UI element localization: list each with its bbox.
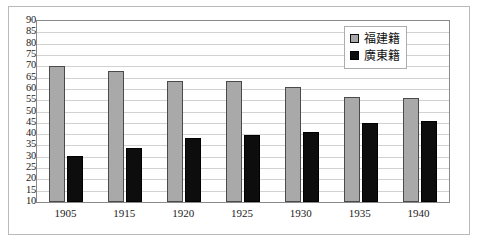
x-tick-label: 1905: [54, 206, 76, 220]
bar-1940-series-1: [403, 98, 419, 202]
x-tick-label: 1920: [172, 206, 194, 220]
x-tick-label: 1935: [349, 206, 371, 220]
x-axis: 1905191519201925193019351940: [36, 206, 450, 226]
y-tick-label: 80: [26, 38, 36, 48]
y-tick-label: 30: [26, 151, 36, 161]
x-tick-label: 1915: [113, 206, 135, 220]
bar-1935-series-1: [344, 97, 360, 202]
legend-swatch-icon-series-a: [350, 34, 359, 43]
y-tick-label: 25: [26, 162, 36, 172]
y-tick-label: 60: [26, 83, 36, 93]
y-tick-label: 40: [26, 128, 36, 138]
y-axis: 9085807570656055504540353025201510: [12, 20, 36, 203]
y-tick-label: 10: [26, 196, 36, 206]
bar-1930-series-2: [303, 132, 319, 202]
bar-group: [226, 21, 260, 202]
bar-1920-series-1: [167, 81, 183, 202]
bar-1915-series-2: [126, 148, 142, 202]
x-tick-label: 1940: [408, 206, 430, 220]
y-tick-label: 55: [26, 94, 36, 104]
x-tick-label: 1930: [290, 206, 312, 220]
bar-1930-series-1: [285, 87, 301, 202]
legend-swatch-icon-series-b: [350, 51, 359, 60]
bar-1935-series-2: [362, 123, 378, 202]
y-tick-label: 50: [26, 106, 36, 116]
bar-1925-series-2: [244, 135, 260, 202]
y-tick-label: 20: [26, 173, 36, 183]
chart-legend: 福建籍 廣東籍: [344, 26, 407, 69]
bar-1915-series-1: [108, 71, 124, 202]
legend-item-series-b: 廣東籍: [350, 47, 400, 64]
bar-group: [403, 21, 437, 202]
bar-chart-figure: 9085807570656055504540353025201510 19051…: [0, 0, 478, 243]
legend-label-series-b: 廣東籍: [364, 49, 400, 63]
bar-group: [167, 21, 201, 202]
legend-label-series-a: 福建籍: [364, 32, 400, 46]
bar-1940-series-2: [421, 121, 437, 202]
y-tick-label: 70: [26, 60, 36, 70]
bar-1920-series-2: [185, 138, 201, 202]
y-tick-label: 65: [26, 72, 36, 82]
bar-1905-series-2: [67, 156, 83, 202]
bar-1905-series-1: [49, 66, 65, 202]
y-tick-label: 85: [26, 26, 36, 36]
y-tick-label: 90: [26, 15, 36, 25]
y-tick-label: 45: [26, 117, 36, 127]
bar-1925-series-1: [226, 81, 242, 202]
bar-group: [49, 21, 83, 202]
x-tick-label: 1925: [231, 206, 253, 220]
y-tick-label: 75: [26, 49, 36, 59]
y-tick-label: 35: [26, 139, 36, 149]
legend-item-series-a: 福建籍: [350, 30, 400, 47]
y-tick-label: 15: [26, 185, 36, 195]
bar-group: [285, 21, 319, 202]
bar-group: [108, 21, 142, 202]
